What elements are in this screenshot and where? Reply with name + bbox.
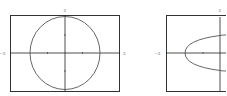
plot1-x-min-label: −3 [0,51,6,56]
plot2-y-max-label: 2 [219,8,222,13]
figure: 2 −3 3 2 −3 [0,0,226,96]
plot-parabola: 2 −3 [155,8,226,92]
plot1-x-max-label: 3 [123,51,126,56]
plot2-x-min-label: −3 [155,51,161,56]
plot1-y-max-label: 2 [64,8,67,13]
plot-circle: 2 −3 3 [0,8,126,92]
plot2-frame [167,16,227,92]
